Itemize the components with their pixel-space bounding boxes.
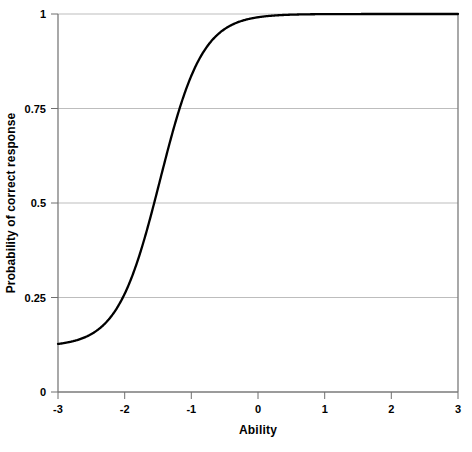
xtick-label-3: 3 bbox=[455, 404, 461, 415]
xtick-label-1: 1 bbox=[322, 404, 328, 415]
y-axis-label-container: Probability of correct response bbox=[0, 14, 22, 392]
cropped-caption-artifact bbox=[8, 444, 138, 452]
y-axis-label: Probability of correct response bbox=[4, 113, 18, 293]
xtick-label-2: 2 bbox=[388, 404, 394, 415]
xtick-label-0: 0 bbox=[255, 404, 261, 415]
x-axis-label: Ability bbox=[58, 423, 458, 437]
chart-canvas bbox=[0, 0, 472, 452]
xtick-label-neg1: -1 bbox=[186, 404, 196, 415]
xtick-label-neg2: -2 bbox=[120, 404, 130, 415]
y-tick-marks bbox=[51, 14, 58, 392]
item-characteristic-curve-figure: 1 0.75 0.5 0.25 0 -3 -2 -1 0 1 2 3 Abili… bbox=[0, 0, 472, 452]
icc-data-curve bbox=[58, 14, 458, 344]
x-tick-marks bbox=[58, 392, 458, 399]
gridlines bbox=[58, 14, 458, 298]
xtick-label-neg3: -3 bbox=[53, 404, 63, 415]
